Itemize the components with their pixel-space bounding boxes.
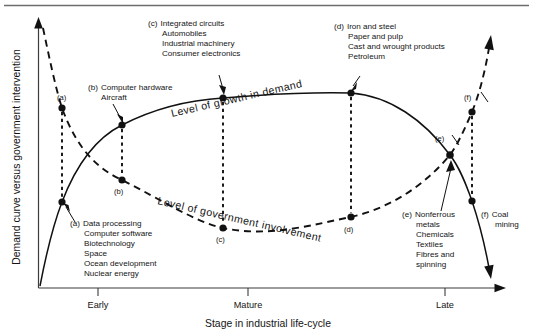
annotation-e-line-2: Chemicals (416, 230, 454, 239)
point-key-e: (e) (435, 134, 445, 143)
annotation-e-line-1: metals (416, 220, 440, 229)
x-tick-label-early: Early (88, 300, 109, 310)
annotation-e-leader (441, 168, 451, 211)
annotation-a-line-1: Computer software (84, 229, 153, 238)
annotation-f-line-0: (f)Coal (481, 210, 508, 219)
annotation-c-arrowhead (219, 85, 226, 95)
point-key-f: (f) (464, 93, 472, 102)
key-f-tick (481, 92, 488, 102)
industrial-life-cycle-diagram: Early Mature Late Stage in industrial li… (0, 0, 533, 334)
y-axis-arrowhead (34, 17, 43, 29)
x-tick-label-late: Late (436, 300, 454, 310)
annotation-d-line-3: Petroleum (348, 52, 385, 61)
annotation-a-line-5: Nuclear energy (84, 269, 140, 278)
annotation-e-line-3: Textiles (416, 240, 443, 249)
point-key-c: (c) (216, 235, 225, 244)
annotation-d-line-2: Cast and wrought products (348, 42, 445, 51)
point-d-government[interactable] (347, 213, 354, 220)
annotation-a-line-0: (a)Data processing (70, 219, 141, 228)
government-curve-arrowhead (484, 35, 494, 50)
point-b-government[interactable] (118, 176, 125, 183)
annotation-e-line-4: Fibres and (416, 250, 454, 259)
annotation-a-line-2: Biotechnology (84, 239, 136, 248)
annotation-b-line-0: (b)Computer hardware (88, 83, 173, 92)
annotation-e-line-0: (e)Nonferrous (402, 210, 455, 219)
point-f-government[interactable] (468, 108, 475, 115)
point-key-a: (a) (57, 93, 67, 102)
annotation-f-line-1: mining (495, 220, 519, 229)
curve-label-growth: Level of growth in demand (170, 77, 304, 119)
data-points (58, 89, 475, 231)
annotation-d-line-1: Paper and pulp (348, 32, 403, 41)
annotation-c-line-2: Industrial machinery (162, 39, 235, 48)
annotation-c-line-3: Consumer electronics (162, 49, 240, 58)
growth-curve-arrowhead (484, 265, 493, 279)
point-b-demand[interactable] (118, 121, 125, 128)
annotation-b: (b)Computer hardware Aircraft (88, 83, 173, 124)
annotation-d-line-0: (d)Iron and steel (334, 22, 396, 31)
annotation-e-arrowhead (446, 160, 455, 172)
x-tick-label-mature: Mature (234, 300, 263, 310)
point-a-government[interactable] (58, 104, 65, 111)
annotation-f: (f)Coal mining (481, 210, 519, 229)
key-e-tick (452, 135, 459, 145)
point-d-demand[interactable] (347, 89, 354, 96)
x-axis-arrowhead (495, 284, 507, 293)
annotation-d: (d)Iron and steel Paper and pulp Cast an… (334, 22, 445, 91)
annotation-c-line-0: (c)Integrated circuits (148, 19, 224, 28)
point-c-government[interactable] (219, 224, 226, 231)
point-key-d: (d) (344, 225, 354, 234)
point-key-b: (b) (114, 187, 124, 196)
annotation-a-line-3: Space (84, 249, 107, 258)
annotation-b-line-1: Aircraft (101, 93, 127, 102)
y-axis-title: Demand curve versus government intervent… (11, 49, 22, 265)
annotation-a-line-4: Ocean development (84, 259, 157, 268)
point-e-crossing[interactable] (446, 151, 454, 159)
point-f-demand[interactable] (468, 197, 475, 204)
annotation-c-line-1: Automobiles (162, 29, 207, 38)
curve-label-government: Level of government involvement (157, 194, 323, 243)
annotation-a: (a)Data processing Computer software Bio… (63, 203, 157, 278)
government-involvement-curve (43, 28, 489, 231)
annotation-e-line-5: spinning (416, 260, 446, 269)
x-axis-title: Stage in industrial life-cycle (205, 318, 331, 329)
